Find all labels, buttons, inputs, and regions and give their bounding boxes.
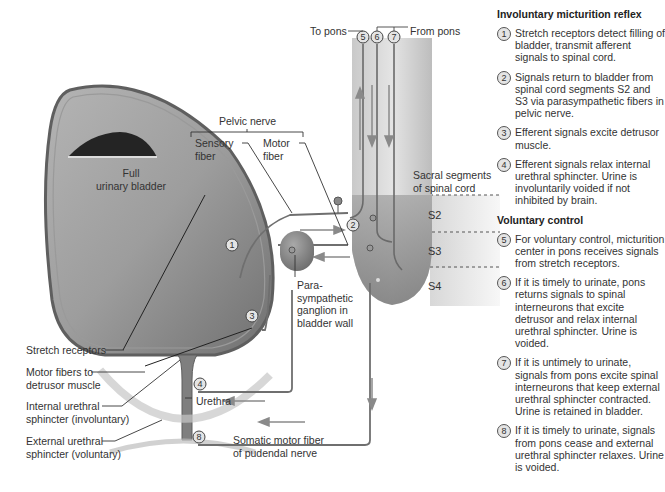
label-from-pons: From pons [410, 25, 460, 38]
svg-text:3: 3 [249, 311, 254, 321]
step-7: 7If it is untimely to urinate, signals f… [497, 356, 665, 417]
explanation-panel: Involuntary micturition reflex 1Stretch … [497, 8, 665, 480]
label-line: of spinal cord [413, 182, 491, 195]
svg-text:4: 4 [197, 379, 202, 389]
involuntary-title: Involuntary micturition reflex [497, 8, 665, 20]
step-4: 4Efferent signals relax internal urethra… [497, 158, 665, 207]
label-internal-sphincter: Internal urethral sphincter (involuntary… [26, 400, 129, 425]
step-1: 1Stretch receptors detect filling of bla… [497, 27, 665, 64]
label-line: detrusor muscle [26, 379, 101, 392]
marker-4-icon: 4 [497, 158, 511, 172]
label-stretch-receptors: Stretch receptors [26, 344, 106, 357]
label-line: fiber [263, 150, 290, 163]
marker-6-icon: 6 [497, 276, 511, 290]
label-line: Para- [297, 279, 353, 292]
step-3: 3Efferent signals excite detrusor muscle… [497, 126, 665, 150]
marker-1-icon: 1 [497, 27, 511, 41]
voluntary-title: Voluntary control [497, 214, 665, 226]
step-6: 6If it is timely to urinate, pons return… [497, 276, 665, 349]
step-text: Stretch receptors detect filling of blad… [515, 27, 665, 63]
svg-text:5: 5 [360, 32, 365, 42]
label-ganglion: Para- sympathetic ganglion in bladder wa… [297, 279, 353, 329]
marker-7-icon: 7 [497, 356, 511, 370]
step-8: 8If it is timely to urinate, signals fro… [497, 424, 665, 473]
label-line: ganglion in [297, 304, 353, 317]
label-line: urinary bladder [96, 180, 166, 193]
marker-3-icon: 3 [497, 126, 511, 140]
marker-2-icon: 2 [497, 71, 511, 85]
label-motor-fiber: Motor fiber [263, 137, 290, 162]
step-text: If it is timely to urinate, signals from… [515, 424, 664, 473]
svg-text:8: 8 [196, 432, 201, 442]
label-to-pons: To pons [310, 25, 347, 38]
label-urethra: Urethra [196, 395, 231, 408]
label-pelvic-nerve: Pelvic nerve [219, 115, 276, 128]
step-text: Efferent signals excite detrusor muscle. [515, 126, 659, 150]
label-line: Somatic motor fiber [233, 434, 324, 447]
parasympathetic-ganglion [280, 231, 314, 271]
label-full-bladder: Full urinary bladder [96, 167, 166, 192]
label-external-sphincter: External urethral sphincter (voluntary) [26, 435, 121, 460]
svg-text:1: 1 [229, 240, 234, 250]
pons-markers: 5 6 7 [357, 31, 400, 43]
label-line: sphincter (voluntary) [26, 448, 121, 461]
step-text: Efferent signals relax internal urethral… [515, 158, 650, 207]
label-line: Sensory [195, 137, 234, 150]
label-line: bladder wall [297, 317, 353, 330]
label-sacral-segments: Sacral segments of spinal cord [413, 169, 491, 194]
label-s4: S4 [428, 280, 441, 293]
label-line: Motor fibers to [26, 366, 101, 379]
svg-text:6: 6 [374, 32, 379, 42]
step-5: 5For voluntary control, micturition cent… [497, 233, 665, 270]
label-line: of pudendal nerve [233, 447, 324, 460]
svg-text:2: 2 [350, 220, 355, 230]
label-line: sphincter (involuntary) [26, 413, 129, 426]
step-text: For voluntary control, micturition cente… [515, 233, 664, 269]
step-text: Signals return to bladder from spinal co… [515, 71, 664, 120]
label-s3: S3 [428, 245, 441, 258]
step-text: If it is timely to urinate, pons returns… [515, 276, 645, 349]
step-2: 2Signals return to bladder from spinal c… [497, 71, 665, 120]
urinary-bladder [45, 86, 273, 452]
label-line: sympathetic [297, 292, 353, 305]
svg-text:7: 7 [391, 32, 396, 42]
label-line: fiber [195, 150, 234, 163]
label-line: Motor [263, 137, 290, 150]
label-line: Internal urethral [26, 400, 129, 413]
step-text: If it is untimely to urinate, signals fr… [515, 356, 660, 417]
label-line: External urethral [26, 435, 121, 448]
label-line: Full [96, 167, 166, 180]
marker-8-icon: 8 [497, 424, 511, 438]
label-line: Sacral segments [413, 169, 491, 182]
label-motor-fibers-detrusor: Motor fibers to detrusor muscle [26, 366, 101, 391]
label-somatic-fiber: Somatic motor fiber of pudendal nerve [233, 434, 324, 459]
label-sensory-fiber: Sensory fiber [195, 137, 234, 162]
marker-5-icon: 5 [497, 233, 511, 247]
label-s2: S2 [428, 209, 441, 222]
